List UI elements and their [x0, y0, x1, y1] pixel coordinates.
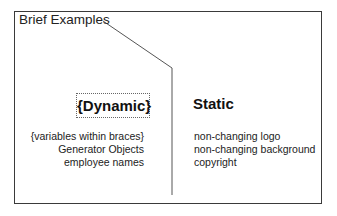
diagram-title: Brief Examples — [19, 12, 110, 27]
static-examples-list: non-changing logo non-changing backgroun… — [194, 130, 315, 170]
static-heading: Static — [193, 95, 234, 112]
dynamic-heading: {Dynamic} — [76, 93, 150, 118]
static-example-item: non-changing logo — [194, 130, 315, 143]
dynamic-example-item: Generator Objects — [31, 143, 144, 156]
static-example-item: non-changing background — [194, 143, 315, 156]
divider-lines — [0, 0, 337, 216]
dynamic-example-item: {variables within braces} — [31, 130, 144, 143]
dynamic-example-item: employee names — [31, 156, 144, 169]
static-example-item: copyright — [194, 156, 315, 169]
dynamic-examples-list: {variables within braces} Generator Obje… — [31, 130, 144, 170]
callout-diagonal-line — [103, 21, 172, 68]
